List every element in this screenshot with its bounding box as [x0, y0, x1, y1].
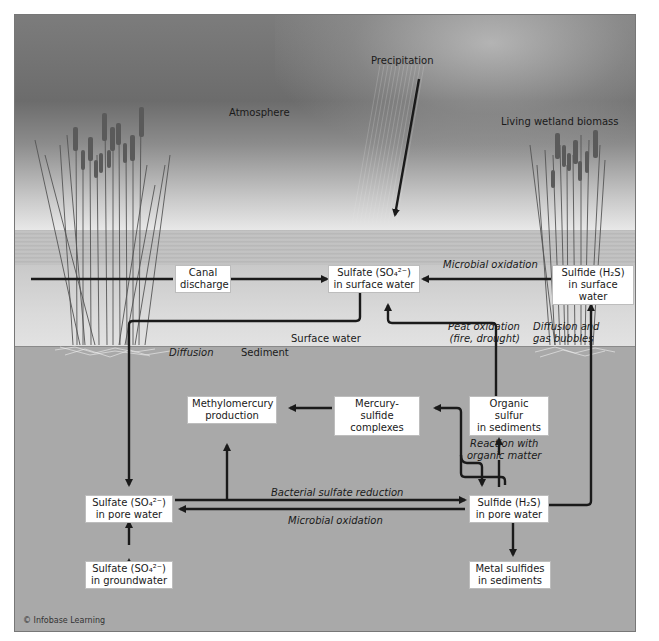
sulfide-surface-box: Sulfide (H₂S)in surface water — [552, 265, 634, 305]
surface-water-label: Surface water — [291, 333, 361, 345]
peat-oxidation-label: Peat oxidation (fire, drought) — [448, 321, 520, 345]
microbial-oxidation-top-label: Microbial oxidation — [443, 259, 538, 271]
sulfide-pore-box: Sulfide (H₂S)in pore water — [469, 495, 549, 523]
diffusion-gas-label: Diffusion and gas bubbles — [533, 321, 599, 345]
living-biomass-label: Living wetland biomass — [501, 116, 618, 128]
sediment-label: Sediment — [241, 347, 289, 359]
sulfate-groundwater-box: Sulfate (SO₄²⁻)in groundwater — [85, 561, 173, 589]
left-cattails — [35, 110, 170, 345]
peat-oxidation-arrow — [388, 305, 496, 400]
diffusion-label: Diffusion — [169, 347, 213, 359]
microbial-oxidation-bottom-label: Microbial oxidation — [288, 515, 383, 527]
metal-sulfides-box: Metal sulfidesin sediments — [469, 561, 551, 589]
right-roots — [535, 347, 615, 357]
sulfur-cycle-diagram: Atmosphere Precipitation Living wetland … — [14, 14, 636, 632]
rain-streaks — [351, 65, 424, 230]
methylmercury-box: Methylomercuryproduction — [187, 396, 277, 424]
precipitation-arrow — [395, 79, 419, 215]
organic-sulfur-box: Organic sulfurin sediments — [469, 396, 549, 436]
credit-label: © Infobase Learning — [23, 616, 105, 625]
reaction-organic-label: Reaction with organic matter — [467, 438, 541, 462]
precipitation-label: Precipitation — [371, 55, 434, 67]
bacterial-reduction-label: Bacterial sulfate reduction — [271, 487, 403, 499]
diffusion-arrow — [129, 293, 360, 485]
sulfate-pore-box: Sulfate (SO₄²⁻)in pore water — [85, 495, 173, 523]
right-cattail-heads — [551, 130, 598, 188]
sulfate-surface-box: Sulfate (SO₄²⁻)in surface water — [328, 265, 420, 293]
left-roots — [55, 347, 170, 357]
canal-discharge-box: Canaldischarge — [175, 265, 231, 293]
mercury-sulfide-box: Mercury-sulfidecomplexes — [334, 396, 420, 436]
atmosphere-label: Atmosphere — [229, 107, 290, 119]
